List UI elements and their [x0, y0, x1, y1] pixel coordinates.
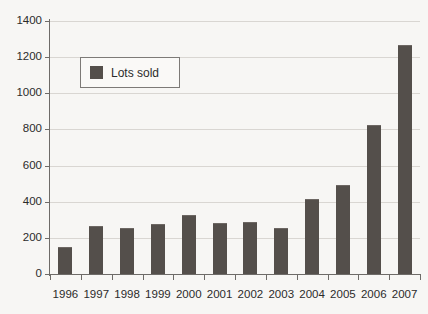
bar — [398, 45, 412, 274]
y-tick-label: 200 — [0, 232, 42, 244]
y-tick-label: 400 — [0, 196, 42, 208]
y-tick-label: 1200 — [0, 51, 42, 63]
x-tick-label: 2004 — [295, 288, 329, 300]
x-tick-mark — [420, 274, 421, 280]
x-tick-mark — [235, 274, 236, 280]
y-tick-label: 1000 — [0, 87, 42, 99]
x-tick-label: 2005 — [326, 288, 360, 300]
x-tick-mark — [143, 274, 144, 280]
x-tick-mark — [266, 274, 267, 280]
legend-swatch-icon — [90, 66, 103, 79]
y-tick-label: 800 — [0, 123, 42, 135]
x-tick-label: 2006 — [357, 288, 391, 300]
bar — [151, 224, 165, 274]
bar — [89, 226, 103, 274]
x-tick-mark — [112, 274, 113, 280]
bar — [182, 215, 196, 274]
x-tick-label: 2001 — [203, 288, 237, 300]
bar — [274, 228, 288, 274]
x-tick-mark — [389, 274, 390, 280]
bar — [243, 222, 257, 274]
x-tick-mark — [328, 274, 329, 280]
bar — [305, 199, 319, 274]
x-tick-mark — [358, 274, 359, 280]
x-tick-mark — [204, 274, 205, 280]
x-tick-mark — [81, 274, 82, 280]
x-tick-label: 2003 — [264, 288, 298, 300]
x-tick-mark — [297, 274, 298, 280]
x-tick-label: 1997 — [79, 288, 113, 300]
bar — [213, 223, 227, 275]
x-tick-label: 1996 — [48, 288, 82, 300]
x-tick-label: 2002 — [233, 288, 267, 300]
chart-legend: Lots sold — [80, 57, 180, 88]
x-tick-label: 2000 — [172, 288, 206, 300]
bar-chart: 0200400600800100012001400 19961997199819… — [0, 0, 428, 314]
bar — [336, 185, 350, 274]
legend-label-lots-sold: Lots sold — [111, 67, 159, 79]
x-tick-label: 1998 — [110, 288, 144, 300]
bar — [58, 247, 72, 274]
x-tick-label: 1999 — [141, 288, 175, 300]
x-tick-mark — [50, 274, 51, 280]
bar — [367, 125, 381, 274]
x-tick-mark — [173, 274, 174, 280]
y-tick-label: 0 — [0, 268, 42, 280]
y-tick-label: 1400 — [0, 15, 42, 27]
y-tick-label: 600 — [0, 160, 42, 172]
bar — [120, 228, 134, 274]
x-tick-label: 2007 — [388, 288, 422, 300]
